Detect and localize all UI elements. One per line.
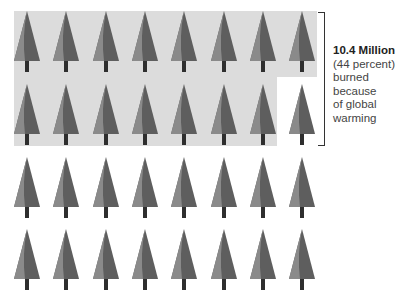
tree-icon	[288, 157, 316, 219]
tree-icon	[249, 84, 277, 146]
tree-icon	[92, 229, 120, 291]
tree-icon	[170, 84, 198, 146]
tree-icon	[92, 157, 120, 219]
tree-icon	[170, 157, 198, 219]
tree-icon	[288, 229, 316, 291]
tree-icon	[52, 157, 80, 219]
tree-icon	[92, 11, 120, 73]
tree-icon	[131, 84, 159, 146]
annotation-line: of global	[333, 98, 396, 112]
annotation-line: warming	[333, 112, 396, 126]
tree-icon	[52, 11, 80, 73]
tree-icon	[210, 229, 238, 291]
tree-icon	[13, 157, 41, 219]
tree-icon	[210, 157, 238, 219]
tree-icon	[170, 11, 198, 73]
tree-icon	[13, 84, 41, 146]
annotation-headline: 10.4 Million	[333, 44, 396, 58]
tree-icon	[13, 11, 41, 73]
tree-icon	[131, 229, 159, 291]
tree-icon	[170, 229, 198, 291]
tree-icon	[131, 157, 159, 219]
tree-icon	[288, 11, 316, 73]
tree-icon	[249, 11, 277, 73]
tree-icon	[210, 11, 238, 73]
annotation-label: 10.4 Million (44 percent) burned because…	[333, 44, 396, 125]
tree-icon	[13, 229, 41, 291]
bracket	[318, 12, 325, 146]
annotation-line: because	[333, 85, 396, 99]
tree-icon	[131, 11, 159, 73]
tree-icon	[52, 229, 80, 291]
tree-icon	[92, 84, 120, 146]
annotation-line: (44 percent)	[333, 58, 396, 72]
tree-icon	[249, 157, 277, 219]
tree-icon	[249, 229, 277, 291]
tree-icon	[288, 84, 316, 146]
tree-icon	[210, 84, 238, 146]
tree-icon	[52, 84, 80, 146]
annotation-line: burned	[333, 71, 396, 85]
